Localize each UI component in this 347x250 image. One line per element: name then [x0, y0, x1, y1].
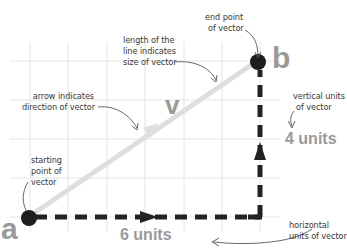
end-point-leader-arrow-icon [245, 30, 258, 56]
direction-leader-arrow-icon [98, 107, 137, 128]
horizontal-arrowhead-icon [140, 211, 158, 223]
point-a-label: a [1, 214, 18, 244]
length-leader-arrow-icon [175, 62, 216, 80]
horizontal-units-label: 6 units [120, 226, 172, 244]
vertical-units-label: 4 units [285, 130, 337, 148]
start-point-leader-arrow-icon [23, 182, 28, 210]
vertical-units-annotation: vertical units of vector [293, 91, 345, 113]
length-annotation: length of the line indicates size of vec… [123, 35, 177, 68]
vertical-component-dashed-line [248, 70, 266, 217]
starting-point-annotation: starting point of vector [31, 155, 62, 188]
horizontal-units-annotation: horizontal units of vector [289, 220, 347, 242]
start-point-a-dot [21, 210, 37, 226]
point-b-label: b [272, 43, 290, 73]
direction-annotation: arrow indicates direction of vector [22, 91, 94, 113]
end-point-b-dot [250, 54, 266, 70]
end-point-annotation: end point of vector [205, 12, 244, 34]
vector-v-label: v [165, 92, 179, 118]
vector-diagram: a b v 6 units 4 units length of the line… [0, 0, 347, 250]
vertical-arrowhead-icon [254, 142, 266, 160]
